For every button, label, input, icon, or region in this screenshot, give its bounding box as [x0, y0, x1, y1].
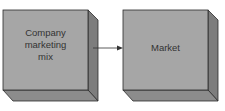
label-line: mix [38, 51, 53, 63]
label-line: marketing [25, 39, 67, 51]
box-label-market: Market [123, 10, 208, 86]
box-label-company-marketing-mix: Company marketing mix [3, 10, 88, 80]
label-line: Market [151, 42, 180, 54]
label-line: Company [25, 27, 66, 39]
